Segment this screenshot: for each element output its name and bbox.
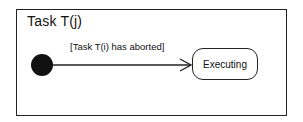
state-label: Executing bbox=[203, 59, 247, 70]
initial-node-icon bbox=[31, 54, 53, 76]
state-executing: Executing bbox=[192, 48, 258, 80]
transition-guard-label: [Task T(i) has aborted] bbox=[70, 41, 164, 52]
